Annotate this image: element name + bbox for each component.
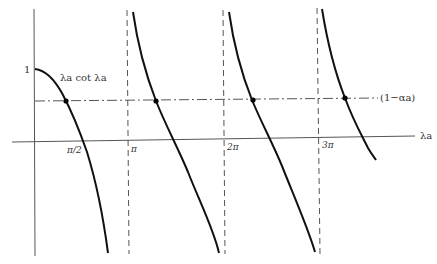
hline-1-minus-alpha-a <box>35 98 378 101</box>
y-tick-one: 1 <box>24 64 30 75</box>
x-tick-2pi: 2π <box>226 142 240 152</box>
x-tick-3pi: 3π <box>322 140 335 150</box>
chart-canvas: 1 λa cot λa (1−αa) λa π/2 π 2π 3π <box>0 0 437 264</box>
hline-label: (1−αa) <box>380 92 415 103</box>
curve-branch-2 <box>133 12 219 253</box>
intersection-point-1 <box>63 98 68 103</box>
x-tick-half-pi: π/2 <box>66 145 82 155</box>
x-tick-pi: π <box>130 144 138 154</box>
x-axis <box>12 136 415 142</box>
intersection-point-4 <box>342 95 347 100</box>
asymptote-3pi <box>317 8 320 254</box>
intersection-point-2 <box>153 98 158 103</box>
curve-branch-3 <box>229 12 315 252</box>
x-axis-label: λa <box>420 130 432 141</box>
curve-label: λa cot λa <box>60 72 107 83</box>
asymptote-pi <box>127 10 129 254</box>
intersection-point-3 <box>250 97 255 102</box>
y-axis <box>34 9 35 256</box>
asymptote-2pi <box>223 10 225 254</box>
curve-branch-1 <box>35 69 108 253</box>
